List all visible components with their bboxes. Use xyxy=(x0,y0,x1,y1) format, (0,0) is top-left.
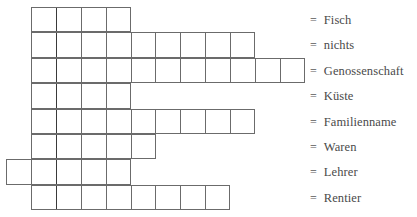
equals-icon: = xyxy=(310,12,317,28)
equals-icon: = xyxy=(310,114,317,130)
answer-text: Lehrer xyxy=(324,164,358,180)
word-grid-puzzle: = Fisch = nichts = Genossenschaft = Küst… xyxy=(0,0,417,217)
equals-icon: = xyxy=(310,139,317,155)
answer-label-rentier: = Rentier xyxy=(310,190,361,206)
answer-label-genossenschaft: = Genossenschaft xyxy=(310,63,404,79)
answer-text: Küste xyxy=(324,88,354,104)
answer-text: Fisch xyxy=(324,12,352,28)
answer-text: Familienname xyxy=(324,114,397,130)
answer-text: Rentier xyxy=(324,190,362,206)
equals-icon: = xyxy=(310,63,317,79)
equals-icon: = xyxy=(310,190,317,206)
equals-icon: = xyxy=(310,164,317,180)
equals-icon: = xyxy=(310,88,317,104)
equals-icon: = xyxy=(310,37,317,53)
answer-label-familienname: = Familienname xyxy=(310,114,397,130)
answer-text: Genossenschaft xyxy=(324,63,404,79)
answer-label-lehrer: = Lehrer xyxy=(310,164,358,180)
answer-text: Waren xyxy=(324,139,357,155)
answer-label-waren: = Waren xyxy=(310,139,357,155)
answer-labels: = Fisch = nichts = Genossenschaft = Küst… xyxy=(0,0,417,217)
answer-text: nichts xyxy=(324,37,354,53)
answer-label-fisch: = Fisch xyxy=(310,12,351,28)
answer-label-kueste: = Küste xyxy=(310,88,353,104)
answer-label-nichts: = nichts xyxy=(310,37,354,53)
